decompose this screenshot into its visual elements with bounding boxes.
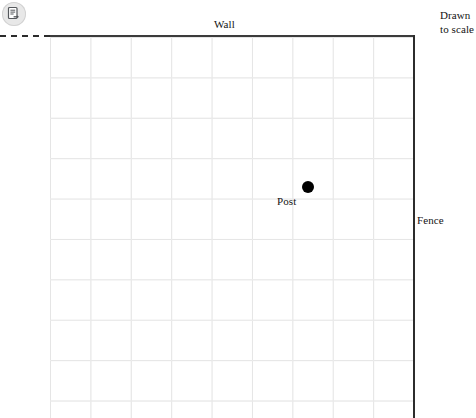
wall-boundary-line (49, 35, 415, 37)
wall-label: Wall (214, 18, 235, 31)
scale-diagram: Wall Fence Post Drawn to scale (0, 0, 476, 418)
diagram-grid (50, 37, 414, 418)
drawn-to-scale-note: Drawn to scale (440, 8, 476, 36)
post-point-marker (302, 181, 314, 193)
fence-label: Fence (417, 214, 444, 227)
fence-boundary-line (413, 35, 415, 418)
post-label: Post (277, 195, 296, 208)
wall-dashed-extension-line (0, 35, 50, 37)
